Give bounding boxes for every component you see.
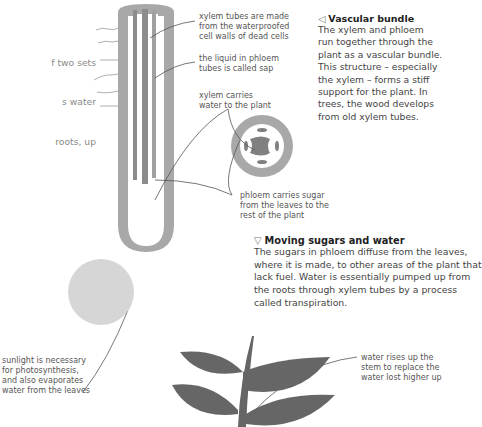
plant (172, 336, 335, 427)
callout-sunlight: sunlight is necessary for photosynthesis… (2, 356, 90, 396)
callout-xylem-carries: xylem carries water to the plant (199, 91, 271, 111)
vascular-bundle-section: ◁Vascular bundle The xylem and phloem ru… (318, 13, 442, 123)
intro-text-block: f two sets s water roots, up ugar made r… (0, 0, 96, 150)
moving-sugars-section: ▽Moving sugars and water The sugars in p… (254, 235, 482, 310)
stem-longitudinal-section (118, 4, 174, 252)
moving-sugars-heading: ▽Moving sugars and water (254, 235, 482, 246)
callout-phloem-carries: phloem carries sugar from the leaves to … (240, 191, 329, 221)
callout-water-rises: water rises up the stem to replace the w… (361, 353, 442, 383)
callout-phloem-sap: the liquid in phloem tubes is called sap (199, 54, 279, 74)
triangle-down-icon: ▽ (254, 235, 262, 246)
sun (68, 259, 134, 325)
vascular-bundle-body: The xylem and phloem run together throug… (318, 24, 442, 123)
moving-sugars-body: The sugars in phloem diffuse from the le… (254, 246, 482, 310)
intro-text: f two sets s water roots, up ugar made r… (46, 29, 96, 150)
cross-section (231, 115, 293, 177)
root-hairs (94, 28, 118, 106)
callout-xylem-tubes: xylem tubes are made from the waterproof… (199, 12, 289, 42)
vascular-bundle-heading: ◁Vascular bundle (318, 13, 442, 24)
triangle-left-icon: ◁ (318, 13, 325, 24)
